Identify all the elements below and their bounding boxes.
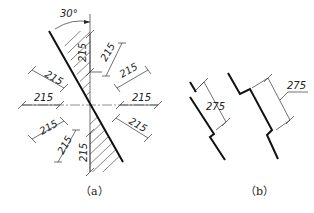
caption-b: （b） <box>245 185 274 198</box>
dim-lower-left-1: 215 <box>38 118 60 137</box>
dim-vertical-bottom: 215 <box>78 143 89 162</box>
dim-upper-right-1: 215 <box>98 41 117 63</box>
dim-lower-left-2: 215 <box>55 134 74 156</box>
dim-vertical-top: 215 <box>77 43 88 62</box>
dim-b-left: 275 <box>206 101 225 112</box>
dimension-drawing: 30° 215 215 215 215 215 215 <box>0 0 314 213</box>
arrow-icon <box>84 20 90 24</box>
dim-right: 215 <box>132 92 151 103</box>
caption-a: （a） <box>80 185 109 198</box>
dim-left: 215 <box>34 92 53 103</box>
figure-b: 275 275 （b） <box>190 73 308 198</box>
angle-label: 30° <box>60 8 78 19</box>
figure-a: 30° 215 215 215 215 215 215 <box>18 8 162 198</box>
dim-upper-left: 215 <box>43 68 65 87</box>
dim-b-right: 275 <box>287 80 306 91</box>
profile-right <box>228 73 278 159</box>
